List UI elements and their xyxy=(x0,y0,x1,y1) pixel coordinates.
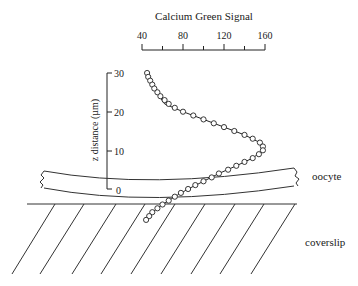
data-point xyxy=(178,190,183,195)
data-point xyxy=(144,217,149,222)
data-point xyxy=(201,117,206,122)
data-point xyxy=(158,94,163,99)
data-point xyxy=(172,194,177,199)
data-point xyxy=(160,202,165,207)
oocyte-band xyxy=(40,168,299,198)
x-axis-title: Calcium Green Signal xyxy=(155,10,253,22)
data-point xyxy=(226,167,231,172)
y-tick-20: 20 xyxy=(114,107,124,118)
data-point xyxy=(211,121,216,126)
data-point xyxy=(250,156,255,161)
coverslip-label: coverslip xyxy=(305,236,346,248)
y-axis-title: z distance (µm) xyxy=(89,99,101,161)
data-point xyxy=(186,186,191,191)
data-point xyxy=(250,136,255,141)
oocyte-label: oocyte xyxy=(312,170,341,182)
data-point xyxy=(155,206,160,211)
data-point xyxy=(234,163,239,168)
figure-canvas: Calcium Green Signal 40 80 120 160 30 20… xyxy=(0,0,358,286)
data-point xyxy=(166,101,171,106)
y-tick-0: 0 xyxy=(116,185,121,196)
data-points xyxy=(144,70,266,222)
x-tick-120: 120 xyxy=(217,30,232,41)
data-point xyxy=(232,128,237,133)
x-axis: Calcium Green Signal 40 80 120 160 xyxy=(137,10,273,50)
y-tick-30: 30 xyxy=(114,68,124,79)
data-point xyxy=(172,105,177,110)
x-tick-40: 40 xyxy=(137,30,147,41)
coverslip xyxy=(12,204,297,274)
data-point xyxy=(256,152,261,157)
data-point xyxy=(193,183,198,188)
data-point xyxy=(209,175,214,180)
data-point xyxy=(191,113,196,118)
data-point xyxy=(242,132,247,137)
x-tick-160: 160 xyxy=(258,30,273,41)
data-point xyxy=(216,171,221,176)
x-tick-80: 80 xyxy=(178,30,188,41)
data-point xyxy=(180,109,185,114)
y-tick-10: 10 xyxy=(114,146,124,157)
data-point xyxy=(242,159,247,164)
y-axis: 30 20 10 0 z distance (µm) xyxy=(89,68,124,196)
data-point xyxy=(221,125,226,130)
data-point xyxy=(166,198,171,203)
data-point xyxy=(201,179,206,184)
